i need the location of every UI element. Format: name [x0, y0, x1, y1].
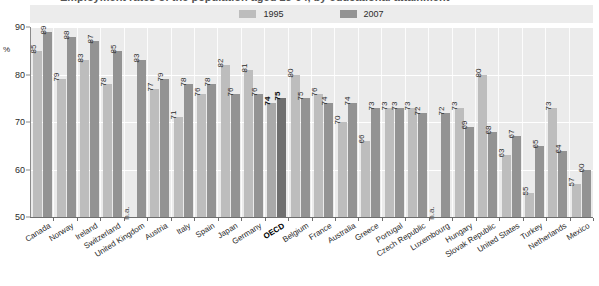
bar-1995-norway: 79	[57, 79, 66, 217]
x-tick	[570, 218, 571, 221]
x-tick	[124, 218, 125, 221]
x-axis-label-canada: Canada	[24, 222, 52, 244]
bar-value-label: 79	[157, 73, 165, 82]
bar-value-label: 73	[391, 101, 399, 110]
bar-2007-france: 74	[324, 103, 333, 217]
x-axis-label-mexico: Mexico	[566, 222, 592, 242]
bar-1995-luxembourg: n.a.	[431, 215, 440, 217]
bar-group: 7364	[546, 27, 569, 217]
x-axis-label-norway: Norway	[48, 222, 75, 243]
bar-value-label: 73	[451, 101, 459, 110]
bar-group: 8068	[476, 27, 499, 217]
y-tick-label-60: 60	[15, 165, 25, 174]
bar-value-label: 76	[227, 87, 235, 96]
bar-value-label: 78	[204, 78, 212, 87]
bar-value-label: 74	[321, 97, 329, 106]
page-title: Employment rates of the population aged …	[60, 0, 449, 3]
bar-1995-united-kingdom: n.a.	[127, 215, 136, 217]
x-tick	[593, 218, 594, 221]
bar-2007-austria: 79	[160, 79, 169, 217]
bar-value-label: 83	[77, 54, 85, 63]
bar-2007-united-states: 67	[512, 136, 521, 217]
bar-2007-united-kingdom: 83	[137, 60, 146, 217]
bar-group: 6673	[359, 27, 382, 217]
x-tick	[335, 218, 336, 221]
x-axis-labels: CanadaNorwayIrelandSwitzerlandUnited Kin…	[30, 219, 593, 286]
bar-value-label: 78	[180, 78, 188, 87]
x-tick	[77, 218, 78, 221]
bar-group: 7885	[101, 27, 124, 217]
bar-2007-japan: 76	[231, 94, 240, 218]
y-tick-label-80: 80	[15, 70, 25, 79]
bar-group: 7372	[406, 27, 429, 217]
bar-2007-ireland: 87	[90, 41, 99, 217]
legend-label: 2007	[364, 10, 384, 19]
bar-value-label: 63	[498, 149, 506, 158]
bar-group: 7779	[148, 27, 171, 217]
legend-swatch-2007	[340, 10, 357, 18]
bar-value-label: 72	[438, 106, 446, 115]
x-axis-label-italy: Italy	[176, 222, 193, 237]
x-tick	[147, 218, 148, 221]
x-tick	[452, 218, 453, 221]
bar-2007-slovak-republic: 68	[488, 132, 497, 218]
bar-value-label: 65	[532, 139, 540, 148]
x-tick	[171, 218, 172, 221]
bar-1995-united-states: 63	[502, 155, 511, 217]
bar-value-label: 74	[344, 97, 352, 106]
bar-value-label: 75	[297, 92, 305, 101]
y-axis-unit: %	[3, 45, 10, 54]
bar-group: 7988	[54, 27, 77, 217]
bar-value-label: 81	[241, 63, 249, 72]
bar-2007-portugal: 73	[395, 108, 404, 217]
bar-1995-canada: 85	[33, 51, 42, 217]
bar-2007-canada: 89	[43, 32, 52, 217]
bar-2007-greece: 73	[371, 108, 380, 217]
bar-1995-portugal: 73	[385, 108, 394, 217]
bar-value-label: 66	[358, 135, 366, 144]
plot-area: 8589798883877885n.a.83777971787678827681…	[30, 27, 593, 218]
x-tick	[241, 218, 242, 221]
x-axis-label-spain: Spain	[195, 222, 217, 240]
legend: 19952007	[30, 5, 593, 23]
bar-2007-belgium: 75	[301, 98, 310, 217]
bar-value-label: 78	[100, 78, 108, 87]
bar-value-label: 68	[485, 125, 493, 134]
x-tick	[358, 218, 359, 221]
bar-group: 7674	[312, 27, 335, 217]
bar-2007-czech-republic: 72	[418, 113, 427, 218]
bar-group: 5565	[523, 27, 546, 217]
bar-2007-italy: 78	[184, 84, 193, 217]
bar-2007-switzerland: 85	[113, 51, 122, 217]
legend-2007: 2007	[340, 10, 384, 19]
bar-value-label: 80	[287, 68, 295, 77]
x-tick	[405, 218, 406, 221]
x-tick	[499, 218, 500, 221]
bar-groups: 8589798883877885n.a.83777971787678827681…	[31, 27, 593, 217]
bar-value-label: 57	[568, 177, 576, 186]
x-tick	[100, 218, 101, 221]
y-tick-label-50: 50	[15, 213, 25, 222]
bar-value-label: 89	[40, 25, 48, 34]
bar-value-label: 74	[264, 97, 272, 106]
legend-swatch-1995	[239, 10, 256, 18]
bar-group: 7369	[453, 27, 476, 217]
bar-value-label: 87	[87, 35, 95, 44]
x-axis-label-austria: Austria	[144, 222, 169, 242]
x-tick	[265, 218, 266, 221]
bar-1995-australia: 70	[338, 122, 347, 217]
bar-value-label: 85	[110, 44, 118, 53]
bar-group: 8387	[78, 27, 101, 217]
bar-1995-mexico: 57	[572, 184, 581, 217]
bar-group: 8075	[289, 27, 312, 217]
x-tick	[288, 218, 289, 221]
bar-1995-italy: 71	[174, 117, 183, 217]
bar-1995-ireland: 83	[80, 60, 89, 217]
y-axis: % 9080706050	[0, 27, 30, 218]
bar-2007-spain: 78	[207, 84, 216, 217]
bar-value-label: 73	[545, 101, 553, 110]
bar-group: 7678	[195, 27, 218, 217]
bar-value-label: 83	[133, 54, 141, 63]
bar-1995-spain: 76	[197, 94, 206, 218]
bar-group: 8176	[242, 27, 265, 217]
